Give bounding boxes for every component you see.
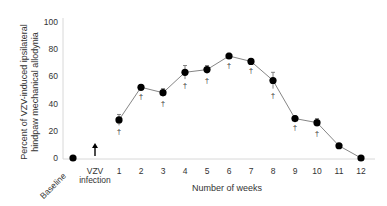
x-axis-title: Number of weeks — [192, 183, 263, 193]
y-axis-title: Percent of VZV-induced ipsilateral hindp… — [19, 24, 40, 160]
x-tick-label: 7 — [249, 166, 254, 176]
x-tick-labels: 123456789101112 — [117, 166, 366, 176]
dagger-icon: † — [183, 81, 187, 90]
infection-label: infection — [79, 175, 111, 185]
data-point — [159, 89, 166, 96]
dagger-icon: † — [227, 61, 231, 70]
vzv-infection-arrow-icon — [92, 143, 98, 156]
data-point — [269, 77, 276, 84]
data-point — [357, 154, 364, 161]
y-tick-label: 100 — [44, 17, 58, 27]
x-tick-label: 6 — [227, 166, 232, 176]
x-tick-label: 12 — [356, 166, 366, 176]
chart-svg: Percent of VZV-induced ipsilateral hindp… — [0, 0, 387, 206]
data-point — [181, 69, 188, 76]
data-point — [69, 154, 76, 161]
y-tick-label: 20 — [49, 126, 59, 136]
y-tick-label: 80 — [49, 44, 59, 54]
series-line — [119, 56, 361, 158]
dagger-icon: † — [293, 123, 297, 132]
x-tick-label: 1 — [117, 166, 122, 176]
x-tick-label: 2 — [139, 166, 144, 176]
x-tick-label: 11 — [335, 166, 344, 176]
dagger-icon: † — [271, 91, 275, 100]
data-point — [247, 58, 254, 65]
data-point — [313, 119, 320, 126]
x-tick-label: 8 — [271, 166, 276, 176]
x-tick-label: 4 — [183, 166, 188, 176]
chart: Percent of VZV-induced ipsilateral hindp… — [0, 0, 387, 206]
data-point — [225, 52, 232, 59]
dagger-icon: † — [205, 76, 209, 85]
y-tick-label: 40 — [49, 99, 59, 109]
x-tick-label: 3 — [161, 166, 166, 176]
data-point — [115, 116, 122, 123]
y-tick-labels: 020406080100 — [44, 17, 58, 163]
data-point — [291, 115, 298, 122]
data-points — [69, 52, 364, 161]
data-point — [137, 84, 144, 91]
dagger-icon: † — [315, 129, 319, 138]
dagger-icon: † — [139, 92, 143, 101]
x-tick-label: 9 — [293, 166, 298, 176]
x-tick-label: 5 — [205, 166, 210, 176]
y-tick-label: 60 — [49, 71, 59, 81]
dagger-icon: † — [161, 99, 165, 108]
dagger-icon: † — [117, 127, 121, 136]
significance-markers: †††††††††† — [117, 61, 319, 138]
x-tick-label: 10 — [312, 166, 322, 176]
y-axis-title-line2: hindpaw mechanical allodynia — [30, 32, 40, 152]
y-tick-label: 0 — [53, 153, 58, 163]
data-point — [335, 142, 342, 149]
dagger-icon: † — [249, 66, 253, 75]
baseline-label: Baseline — [38, 171, 68, 201]
data-point — [203, 66, 210, 73]
y-axis-title-line1: Percent of VZV-induced ipsilateral — [19, 24, 29, 160]
